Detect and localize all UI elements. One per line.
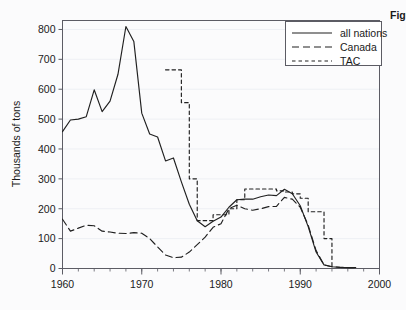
legend-label-canada: Canada (340, 41, 377, 53)
line-chart: 0100200300400500600700800 19601970198019… (0, 0, 406, 310)
y-tick-label: 200 (38, 203, 56, 215)
figure-caption-fragment: Figure (390, 9, 406, 21)
y-tick-label: 400 (38, 143, 56, 155)
y-tick-label: 0 (50, 262, 56, 274)
y-tick-label: 500 (38, 113, 56, 125)
legend-label-tac: TAC (340, 55, 361, 67)
chart-legend: all nationsCanadaTAC (286, 22, 388, 67)
x-tick-label: 1990 (289, 278, 313, 290)
legend-label-all-nations: all nations (340, 27, 387, 39)
y-tick-label: 300 (38, 173, 56, 185)
y-tick-label: 600 (38, 83, 56, 95)
x-tick-label: 1980 (209, 278, 233, 290)
y-axis-tick-labels: 0100200300400500600700800 (38, 23, 56, 274)
figure-root: 0100200300400500600700800 19601970198019… (0, 0, 406, 310)
y-tick-label: 800 (38, 23, 56, 35)
y-axis-ticks (59, 29, 63, 268)
series-canada (63, 197, 356, 267)
x-tick-label: 1970 (130, 278, 154, 290)
y-tick-label: 700 (38, 53, 56, 65)
y-axis-title: Thousands of tons (10, 101, 22, 187)
x-tick-label: 2000 (368, 278, 392, 290)
x-tick-label: 1960 (51, 278, 75, 290)
y-tick-label: 100 (38, 232, 56, 244)
x-axis-tick-labels: 19601970198019902000 (51, 278, 392, 290)
